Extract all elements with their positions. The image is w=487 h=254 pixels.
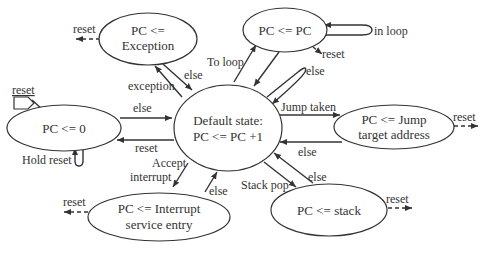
node-interrupt: PC <= Interrupt service entry: [88, 193, 230, 241]
edge-label: in loop: [374, 24, 408, 38]
edge-label: reset: [63, 195, 86, 209]
jump-to-default-edge: else: [280, 142, 342, 159]
edge-label: reset: [135, 141, 158, 155]
state-diagram: reset else reset Hold reset exception el…: [0, 0, 487, 254]
edge-label: Jump taken: [281, 100, 336, 114]
default-to-jump-edge: Jump taken: [280, 100, 340, 115]
edge-label: Hold reset: [22, 153, 72, 167]
interrupt-reset-edge: reset: [63, 195, 88, 212]
zero-to-default-edge: else: [120, 101, 172, 118]
edge-label: else: [298, 145, 317, 159]
svg-text:PC <= Jump: PC <= Jump: [361, 112, 426, 127]
edge-label: exception: [128, 79, 175, 93]
default-to-interrupt-edge: Accept interrupt: [130, 156, 188, 187]
node-zero: PC <= 0: [7, 105, 121, 151]
svg-text:Default state:: Default state:: [193, 113, 263, 128]
svg-text:service entry: service entry: [126, 217, 193, 232]
edge-label: To loop: [207, 55, 244, 69]
loop-self-edge: in loop: [324, 24, 408, 38]
default-to-exception-edge: exception: [128, 66, 182, 97]
edge-label: interrupt: [130, 170, 172, 184]
svg-text:PC <= 0: PC <= 0: [42, 121, 86, 136]
default-to-loop-edge: To loop: [207, 45, 256, 82]
edge-label: else: [306, 64, 325, 78]
svg-text:PC <= stack: PC <= stack: [297, 203, 361, 218]
edge-label: Accept: [152, 156, 187, 170]
edge-label: else: [209, 184, 228, 198]
edge-label: reset: [453, 110, 476, 124]
svg-text:PC <= Interrupt: PC <= Interrupt: [118, 201, 201, 216]
edge-label: reset: [12, 83, 35, 97]
edge-label: reset: [322, 47, 345, 61]
edge-label: else: [308, 170, 327, 184]
edge-label: else: [133, 101, 152, 115]
svg-text:PC <= PC: PC <= PC: [259, 23, 312, 38]
svg-text:target address: target address: [358, 127, 430, 142]
svg-text:PC <= PC +1: PC <= PC +1: [193, 129, 263, 144]
loop-to-default-edge: [254, 52, 279, 86]
node-default: Default state: PC <= PC +1: [174, 85, 282, 171]
default-to-zero-edge: reset: [117, 140, 174, 155]
svg-text:PC <=: PC <=: [131, 23, 165, 38]
node-jump: PC <= Jump target address: [334, 105, 454, 149]
edge-label: reset: [73, 22, 96, 36]
svg-text:Exception: Exception: [122, 38, 175, 53]
loop-reset-edge: reset: [313, 47, 345, 61]
default-self-edge: else: [267, 64, 325, 104]
jump-reset-edge: reset: [453, 110, 478, 126]
reset-entry-flag-icon: [14, 97, 34, 109]
node-stack: PC <= stack: [271, 184, 387, 236]
interrupt-to-default-edge: else: [205, 172, 228, 198]
node-exception: PC <= Exception: [99, 13, 197, 65]
node-loop: PC <= PC: [243, 8, 327, 52]
edge-label: Stack pop: [241, 178, 289, 192]
stack-reset-edge: reset: [386, 192, 412, 208]
edge-label: else: [184, 68, 203, 82]
exception-reset-edge: reset: [73, 22, 100, 39]
edge-label: reset: [386, 192, 409, 206]
